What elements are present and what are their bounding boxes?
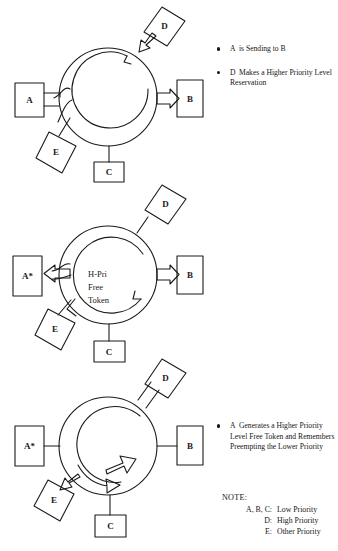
caption-lead: A — [230, 44, 239, 55]
node-c-label-2: C — [106, 347, 113, 357]
node-b-label-3: B — [187, 441, 193, 451]
ring-diagram-3: A* B C D E — [0, 358, 215, 551]
arrow-ring-to-b-2 — [157, 265, 179, 284]
note-value: Other Priority — [277, 526, 321, 537]
bullet-dot-icon — [217, 47, 220, 50]
caption-item: DMakes a Higher Priority Level Reservati… — [216, 68, 336, 89]
note-row: E:Other Priority — [222, 526, 338, 537]
ring-label-line-3: Token — [88, 295, 110, 305]
node-a-label-3: A* — [24, 441, 35, 451]
note-key: D: — [228, 515, 277, 526]
arrow-d-to-ring-1 — [139, 33, 156, 52]
node-c-label-3: C — [107, 521, 114, 531]
figure-page: A B C D E Ais Sending to B DMakes a High… — [0, 0, 338, 551]
node-d-label-3: D — [162, 373, 169, 383]
diagram-panel-1: A B C D E Ais Sending to B DMakes a High… — [0, 0, 338, 190]
diagram-panel-2: A* B C D E H-Pri Free Token AGenerates a… — [0, 183, 338, 371]
caption-body: is Sending to B — [239, 44, 286, 53]
inner-ring-arc-3 — [77, 406, 140, 482]
note-title: NOTE: — [222, 492, 338, 503]
node-b-label-2: B — [187, 270, 193, 280]
node-e-label-1: E — [53, 147, 59, 157]
ring-label-line-2: Free — [88, 282, 103, 292]
link-d-ring-top-3 — [138, 382, 151, 400]
node-e-label-3: E — [51, 495, 57, 505]
note-value: Low Priority — [277, 504, 317, 515]
caption-list-1: Ais Sending to B DMakes a Higher Priorit… — [216, 44, 336, 89]
node-e-label-2: E — [52, 324, 58, 334]
inner-ring-gap-stub-1 — [124, 56, 131, 64]
ring-diagram-2: A* B C D E H-Pri Free Token — [0, 183, 215, 371]
note-key: E: — [228, 526, 277, 537]
caption-item: Ais Sending to B — [216, 44, 336, 55]
bullet-dot-icon — [217, 71, 220, 74]
node-d-label-1: D — [161, 21, 168, 31]
inner-ring-arc-1 — [72, 52, 148, 128]
node-b-label-1: B — [187, 94, 193, 104]
note-row: D:High Priority — [222, 515, 338, 526]
caption-body: Makes a Higher Priority Level Reservatio… — [230, 68, 332, 88]
link-ring-e-2 — [58, 300, 71, 315]
ring-label-line-1: H-Pri — [88, 269, 108, 279]
link-d-ring-bottom-3 — [146, 390, 159, 408]
note-block: NOTE: A, B, C:Low Priority D:High Priori… — [222, 492, 338, 537]
outer-ring-1 — [59, 48, 157, 146]
link-ring-d-2 — [137, 217, 148, 233]
node-a-label-1: A — [26, 95, 33, 105]
node-c-label-1: C — [106, 167, 113, 177]
node-d-label-2: D — [162, 199, 169, 209]
ring-diagram-1: A B C D E — [0, 0, 215, 190]
arrow-ring-to-b-1 — [157, 89, 179, 108]
caption-lead: D — [230, 68, 239, 79]
in-ring-token-arrow-3 — [106, 456, 136, 474]
note-row: A, B, C:Low Priority — [222, 504, 338, 515]
note-value: High Priority — [277, 515, 318, 526]
inner-ring-gap-stub-2 — [133, 291, 141, 299]
node-a-label-2: A* — [22, 271, 33, 281]
note-key: A, B, C: — [228, 504, 277, 515]
